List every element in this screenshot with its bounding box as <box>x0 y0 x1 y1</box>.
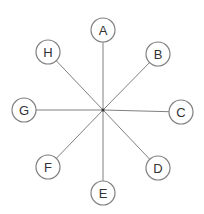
node-label: D <box>153 161 162 176</box>
node-f: F <box>36 155 60 179</box>
node-b: B <box>146 42 170 66</box>
node-label: E <box>99 186 108 201</box>
spoke-b <box>103 63 150 110</box>
spoke-d <box>103 110 150 159</box>
node-d: D <box>146 156 170 180</box>
node-label: G <box>19 103 29 118</box>
node-g: G <box>12 98 36 122</box>
node-h: H <box>36 40 60 64</box>
center-hub <box>102 109 105 112</box>
spoke-c <box>103 110 169 112</box>
node-label: C <box>176 105 185 120</box>
star-diagram: ABCDEFGH <box>0 0 204 214</box>
node-label: H <box>43 45 52 60</box>
node-label: A <box>99 23 108 38</box>
node-label: B <box>154 47 163 62</box>
spoke-f <box>56 110 103 158</box>
spoke-h <box>56 61 103 110</box>
node-e: E <box>91 181 115 205</box>
node-label: F <box>44 160 52 175</box>
node-a: A <box>91 18 115 42</box>
node-c: C <box>169 100 193 124</box>
diagram-canvas: ABCDEFGH <box>0 0 204 214</box>
